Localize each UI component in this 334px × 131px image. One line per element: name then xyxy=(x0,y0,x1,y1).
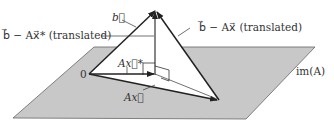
label-plane: im(A) xyxy=(296,65,325,77)
label-b-minus-Ax: b⃗ − Ax⃗ (translated) xyxy=(197,20,302,33)
least-squares-diagram: b⃗ b⃗ − Ax⃗* (translated) b⃗ − Ax⃗ (tran… xyxy=(0,0,334,131)
label-b-minus-Axstar: b⃗ − Ax⃗* (translated) xyxy=(1,28,111,41)
label-origin: 0 xyxy=(80,68,87,80)
label-b: b⃗ xyxy=(112,11,125,23)
leader-b-minus-Ax xyxy=(178,28,190,36)
label-Axstar: Ax⃗* xyxy=(117,57,144,69)
label-Ax: Ax⃗ xyxy=(123,91,144,103)
